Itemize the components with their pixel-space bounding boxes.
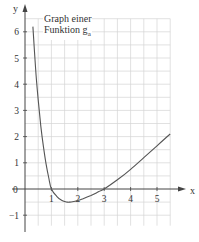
y-tick-label: 6 xyxy=(14,27,19,37)
y-tick-label: 2 xyxy=(14,132,19,142)
y-axis-arrow-icon xyxy=(23,4,28,12)
x-tick-label: 1 xyxy=(49,194,54,204)
x-tick-label: 2 xyxy=(75,194,80,204)
y-axis-label: y xyxy=(13,3,18,14)
x-tick-label: 5 xyxy=(155,194,160,204)
y-tick-label: −1 xyxy=(9,211,19,221)
graph-caption: Graph einer Funktion ga xyxy=(43,13,92,40)
axis-ticks: 12345−1123456 xyxy=(9,27,160,220)
x-axis-label: x xyxy=(190,185,195,196)
x-tick-label: 3 xyxy=(102,194,107,204)
y-tick-label: 1 xyxy=(14,158,19,168)
caption-line-1: Graph einer xyxy=(44,13,91,24)
origin-label: 0 xyxy=(13,185,18,195)
function-graph: xy0 12345−1123456 xyxy=(0,0,199,242)
y-tick-label: 5 xyxy=(14,54,19,64)
caption-function-name: Funktion g xyxy=(44,24,88,35)
caption-subscript: a xyxy=(88,30,91,38)
x-tick-label: 4 xyxy=(128,194,133,204)
x-axis-arrow-icon xyxy=(178,187,186,192)
y-tick-label: 3 xyxy=(14,106,19,116)
caption-line-2: Funktion ga xyxy=(44,24,91,40)
grid xyxy=(25,19,170,226)
y-tick-label: 4 xyxy=(14,80,19,90)
